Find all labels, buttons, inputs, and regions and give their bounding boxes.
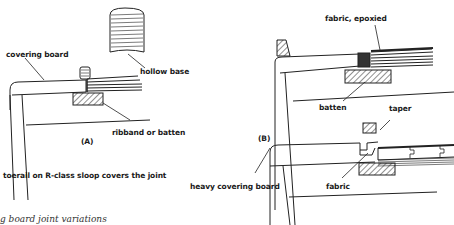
label-covering-board: covering board xyxy=(6,50,68,59)
figure-caption: g board joint variations xyxy=(0,214,107,224)
note-toerail: toerail on R-class sloop covers the join… xyxy=(3,171,166,180)
panel-b-bottom-drawing xyxy=(255,120,454,225)
panel-a-label: (A) xyxy=(81,137,93,146)
label-fabric: fabric xyxy=(326,182,350,191)
deck-planking-b xyxy=(371,48,433,67)
label-taper: taper xyxy=(389,104,411,113)
deck-planking-a xyxy=(87,76,142,92)
label-ribband-or-batten: ribband or batten xyxy=(112,128,185,137)
label-batten: batten xyxy=(319,103,346,112)
label-fabric-epoxied: fabric, epoxied xyxy=(325,14,387,23)
label-heavy-covering-board: heavy covering board xyxy=(190,182,280,191)
panel-b-label: (B) xyxy=(258,134,270,143)
label-hollow-base: hollow base xyxy=(140,67,189,76)
joint-diagram xyxy=(0,0,454,225)
